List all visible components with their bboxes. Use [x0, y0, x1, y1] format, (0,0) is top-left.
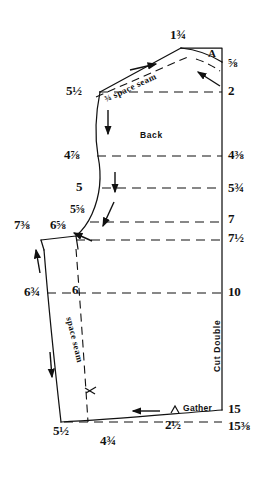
- arrow-side-seam-up: [36, 250, 40, 273]
- measurement-hem-segment-left: 4¾: [100, 434, 116, 447]
- measurement-hem-corner: 15⅜: [228, 419, 250, 432]
- cut-double-label: Cut Double: [213, 320, 222, 372]
- sewing-pattern-diagram: 1¾ A Back Cut Double ¾ space seam space …: [0, 0, 275, 492]
- measurement-hip-line: 10: [228, 285, 241, 298]
- underarm-notch-top: [41, 236, 76, 240]
- measurement-armhole-mid: 5: [76, 180, 82, 193]
- side-seam-line: [44, 250, 61, 422]
- pattern-outline: [41, 48, 222, 422]
- measurement-bust-line: 7: [228, 212, 234, 225]
- measurement-top-center: 1¾: [170, 28, 186, 41]
- measurement-hem-gather-segment: 2½: [165, 418, 181, 431]
- measurement-neck-depth: ⅝: [228, 56, 238, 69]
- measurement-underarm-inner: 6⅝: [50, 218, 66, 231]
- point-label-a: A: [208, 48, 216, 59]
- measurement-hem-line: 15: [228, 402, 241, 415]
- construction-guidelines: [47, 92, 222, 422]
- arrow-side-seam-down: [50, 352, 52, 377]
- gather-label: Gather: [183, 404, 212, 413]
- measurement-chest-line: 5¾: [228, 181, 244, 194]
- measurement-underarm-outer: 7⅜: [14, 218, 30, 231]
- measurement-underarm-line: 4⅜: [228, 148, 244, 161]
- gather-notch-mark: [85, 387, 179, 413]
- underarm-notch-right: [76, 236, 78, 249]
- measurement-armhole-lower: 5⅝: [70, 203, 85, 215]
- measurement-shoulder-line: 2: [228, 84, 234, 97]
- measurement-shoulder-tip: 5½: [66, 84, 82, 97]
- measurement-hip-left-outer: 6¾: [24, 285, 40, 298]
- notch-triangle: [171, 406, 179, 413]
- piece-name-back: Back: [140, 131, 163, 140]
- underarm-notch-left: [41, 240, 44, 250]
- arrow-neck-left: [198, 72, 220, 86]
- measurement-hip-left-inner: 6: [72, 283, 78, 296]
- measurement-hem-left: 5½: [53, 424, 69, 437]
- measurement-waist-line: 7½: [228, 231, 244, 244]
- neck-seam-allowance-dash: [196, 59, 220, 71]
- measurement-armhole-upper: 4⅞: [64, 148, 80, 161]
